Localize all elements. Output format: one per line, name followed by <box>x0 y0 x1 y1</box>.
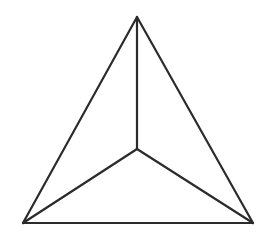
edge-top-to-bottom-left <box>23 17 137 223</box>
edges-group <box>23 17 253 223</box>
edge-center-to-bottom-left <box>23 149 137 223</box>
edge-center-to-bottom-right <box>137 149 253 223</box>
edge-top-to-bottom-right <box>137 17 253 223</box>
tetrahedron-diagram <box>0 0 264 250</box>
